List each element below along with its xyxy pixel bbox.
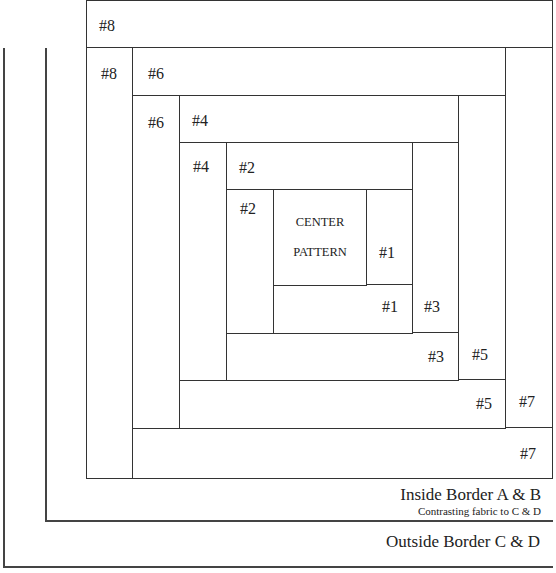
piece-3-bottom-label: #3 [428, 348, 444, 366]
inside-border-note: Contrasting fabric to C & D [418, 505, 541, 517]
piece-4-left-label: #4 [193, 158, 209, 176]
piece-4-left: #4 [179, 142, 228, 381]
piece-6-top-label: #6 [148, 65, 164, 83]
piece-8-top: #8 [86, 0, 553, 49]
piece-2-top: #2 [226, 142, 413, 191]
piece-3-right: #3 [411, 142, 459, 334]
outside-border-bottom-line [3, 566, 553, 568]
piece-4-top: #4 [179, 95, 459, 144]
piece-5-bottom-label: #5 [476, 395, 492, 413]
inside-border-bottom-line [45, 520, 553, 522]
piece-5-right-label: #5 [472, 346, 488, 364]
piece-4-top-label: #4 [192, 112, 208, 130]
piece-7-bottom-label: #7 [520, 445, 536, 463]
piece-5-bottom: #5 [179, 379, 506, 429]
piece-1-bottom: #1 [273, 284, 413, 334]
piece-6-left: #6 [132, 95, 181, 429]
piece-5-right: #5 [457, 95, 506, 381]
piece-7-right-label: #7 [519, 393, 535, 411]
piece-1-bottom-label: #1 [382, 298, 398, 316]
piece-7-right: #7 [504, 47, 553, 429]
center-pattern: CENTER PATTERN [273, 189, 367, 286]
piece-8-top-label: #8 [99, 17, 115, 35]
piece-1-right: #1 [365, 189, 413, 286]
center-pattern-line1: CENTER [274, 215, 366, 230]
piece-3-bottom: #3 [226, 332, 459, 381]
piece-2-left: #2 [226, 189, 275, 334]
inside-border-left-line [45, 48, 47, 522]
piece-6-top: #6 [132, 47, 506, 97]
piece-3-right-label: #3 [424, 298, 440, 316]
piece-2-top-label: #2 [239, 159, 255, 177]
outside-border-left-line [3, 48, 5, 568]
piece-7-bottom: #7 [132, 427, 553, 479]
piece-6-left-label: #6 [148, 114, 164, 132]
piece-8-left-label: #8 [101, 65, 117, 83]
inside-border-label: Inside Border A & B [400, 485, 541, 505]
piece-8-left: #8 [86, 47, 134, 479]
piece-2-left-label: #2 [240, 200, 256, 218]
piece-1-right-label: #1 [379, 244, 395, 262]
center-pattern-line2: PATTERN [274, 245, 366, 260]
outside-border-label: Outside Border C & D [386, 532, 540, 552]
